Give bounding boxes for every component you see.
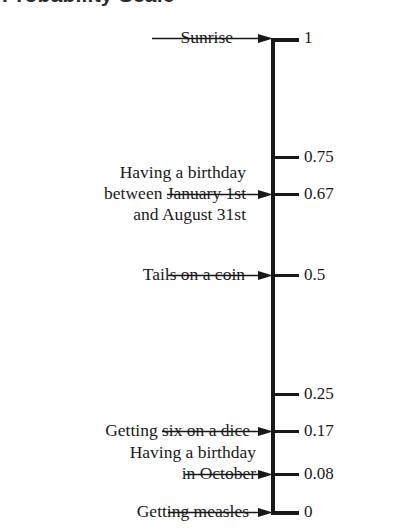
event-label-line: Getting measles <box>137 501 249 522</box>
axis-tick-0-75 <box>271 156 299 159</box>
axis-tick-1 <box>271 38 299 42</box>
probability-scale-diagram: Probability Scale 10.750.670.50.250.170.… <box>0 0 395 529</box>
event-label-line: Having a birthday <box>104 162 246 183</box>
axis-tick-0-08 <box>271 473 299 476</box>
event-label-line: Having a birthday <box>130 442 256 463</box>
axis-tick-label-1: 1 <box>304 29 313 46</box>
axis-tick-label-0: 0 <box>304 503 313 520</box>
axis-tick-label-0-17: 0.17 <box>304 422 334 439</box>
axis-tick-0 <box>271 511 299 515</box>
axis-tick-0-25 <box>271 393 299 396</box>
axis-tick-0-17 <box>271 430 299 433</box>
event-label-tails-on-a-coin: Tails on a coin <box>143 264 245 285</box>
axis-tick-0-5 <box>271 274 299 277</box>
axis-tick-label-0-25: 0.25 <box>304 385 334 402</box>
event-label-line: Getting six on a dice <box>105 420 250 441</box>
axis-tick-label-0-67: 0.67 <box>304 185 334 202</box>
event-label-birthday-in-october: Having a birthdayin October <box>130 442 256 484</box>
event-label-sunrise: Sunrise <box>181 27 234 48</box>
axis-tick-label-0-5: 0.5 <box>304 266 325 283</box>
event-label-line: and August 31st <box>104 204 246 225</box>
event-label-line: between January 1st <box>104 183 246 204</box>
event-label-line: Tails on a coin <box>143 264 245 285</box>
event-label-line: Sunrise <box>181 27 234 48</box>
axis-tick-label-0-08: 0.08 <box>304 465 334 482</box>
page-title: Probability Scale <box>2 0 175 7</box>
page-title-clip: Probability Scale <box>0 0 395 11</box>
event-label-birthday-jan-to-aug: Having a birthdaybetween January 1stand … <box>104 162 246 225</box>
axis-tick-label-0-75: 0.75 <box>304 148 334 165</box>
event-label-line: in October <box>130 463 256 484</box>
axis-tick-0-67 <box>271 193 299 196</box>
event-label-getting-measles: Getting measles <box>137 501 249 522</box>
event-label-getting-six-on-a-dice: Getting six on a dice <box>105 420 250 441</box>
